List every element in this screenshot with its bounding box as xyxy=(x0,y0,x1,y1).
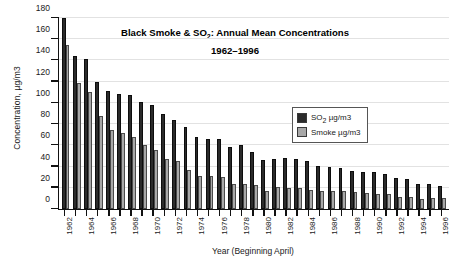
bar-group xyxy=(437,18,448,209)
x-label-slot: 1962 xyxy=(59,216,70,242)
bar xyxy=(331,191,335,209)
x-axis-tick xyxy=(219,209,220,216)
y-axis-tick xyxy=(51,80,59,81)
y-axis-title: Concentration, µg/m3 xyxy=(8,0,26,215)
y-axis-tick xyxy=(51,38,59,39)
bar xyxy=(66,45,70,209)
y-axis-tick-label: 60 xyxy=(41,130,50,140)
x-tick-slot xyxy=(258,209,269,216)
bar xyxy=(287,188,291,209)
x-label-slot: 1996 xyxy=(436,216,447,242)
legend-item: Smoke µg/m3 xyxy=(297,125,361,139)
legend-swatch xyxy=(297,113,307,123)
x-tick-slot xyxy=(170,209,181,216)
bar-group xyxy=(149,18,160,209)
x-axis-tick xyxy=(86,209,87,216)
x-label-slot: 1992 xyxy=(391,216,402,242)
x-axis-tick xyxy=(285,209,286,216)
bar xyxy=(309,190,313,209)
x-label-slot: 1984 xyxy=(303,216,314,242)
x-label-slot xyxy=(92,216,103,242)
x-label-slot: 1982 xyxy=(281,216,292,242)
bar-group xyxy=(426,18,437,209)
bar xyxy=(409,197,413,209)
y-axis-tick-label: 0 xyxy=(45,194,50,204)
x-tick-slot xyxy=(436,209,447,216)
x-tick-slot xyxy=(425,209,436,216)
x-axis-tick xyxy=(241,209,242,216)
y-axis-tick xyxy=(51,59,59,60)
bar-group xyxy=(237,18,248,209)
x-label-slot xyxy=(137,216,148,242)
x-axis-tick xyxy=(197,209,198,216)
x-tick-slot xyxy=(347,209,358,216)
x-label-slot xyxy=(159,216,170,242)
bar xyxy=(265,191,269,209)
y-axis-tick xyxy=(51,17,59,18)
x-label-slot xyxy=(336,216,347,242)
y-axis-tick xyxy=(51,186,59,187)
y-axis-tick-label: 40 xyxy=(41,152,50,162)
bar-group xyxy=(182,18,193,209)
x-label-slot: 1970 xyxy=(148,216,159,242)
x-label-slot xyxy=(425,216,436,242)
x-axis-title: Year (Beginning April) xyxy=(58,246,448,256)
x-label-slot xyxy=(247,216,258,242)
bar-group xyxy=(248,18,259,209)
x-axis-tick-label: 1996 xyxy=(441,217,450,235)
x-tick-slot xyxy=(125,209,136,216)
x-axis-ticks xyxy=(58,209,448,216)
x-axis-tick xyxy=(230,209,231,216)
x-axis-tick xyxy=(429,209,430,216)
bar xyxy=(254,185,258,209)
x-tick-slot xyxy=(414,209,425,216)
bar xyxy=(210,176,214,209)
y-axis-tick-label: 20 xyxy=(41,173,50,183)
x-axis-tick xyxy=(396,209,397,216)
bar-group xyxy=(160,18,171,209)
x-tick-slot xyxy=(114,209,125,216)
y-axis-tick-label: 80 xyxy=(41,109,50,119)
bar xyxy=(77,83,81,209)
x-axis-tick xyxy=(252,209,253,216)
x-label-slot xyxy=(314,216,325,242)
bar xyxy=(342,191,346,209)
bar-group xyxy=(104,18,115,209)
x-axis-tick xyxy=(308,209,309,216)
bar-group xyxy=(71,18,82,209)
x-axis-tick xyxy=(352,209,353,216)
x-axis-tick xyxy=(152,209,153,216)
x-label-slot xyxy=(402,216,413,242)
bar-group xyxy=(392,18,403,209)
x-label-slot xyxy=(269,216,280,242)
x-axis-tick xyxy=(97,209,98,216)
bar-group xyxy=(171,18,182,209)
x-axis-tick xyxy=(274,209,275,216)
x-tick-slot xyxy=(369,209,380,216)
x-label-slot xyxy=(358,216,369,242)
x-axis-tick xyxy=(319,209,320,216)
bar-group xyxy=(259,18,270,209)
y-axis-title-text: Concentration, µg/m3 xyxy=(12,66,22,149)
x-axis-tick xyxy=(418,209,419,216)
bar-group xyxy=(370,18,381,209)
y-axis-tick-label: 160 xyxy=(36,24,50,34)
bar xyxy=(154,150,158,209)
bar-series-container xyxy=(59,18,449,209)
y-axis-tick-label: 120 xyxy=(36,67,50,77)
x-axis-tick xyxy=(175,209,176,216)
bar xyxy=(398,197,402,209)
bar xyxy=(276,187,280,209)
x-tick-slot xyxy=(103,209,114,216)
x-tick-slot xyxy=(148,209,159,216)
bar xyxy=(298,188,302,209)
x-tick-slot xyxy=(303,209,314,216)
chart-figure: Concentration, µg/m3 Black Smoke & SO2: … xyxy=(0,0,458,267)
x-axis-tick xyxy=(296,209,297,216)
x-tick-slot xyxy=(236,209,247,216)
bar xyxy=(198,176,202,209)
y-axis-tick-label: 140 xyxy=(36,45,50,55)
y-axis-tick xyxy=(51,102,59,103)
bar xyxy=(442,198,446,209)
x-tick-slot xyxy=(92,209,103,216)
